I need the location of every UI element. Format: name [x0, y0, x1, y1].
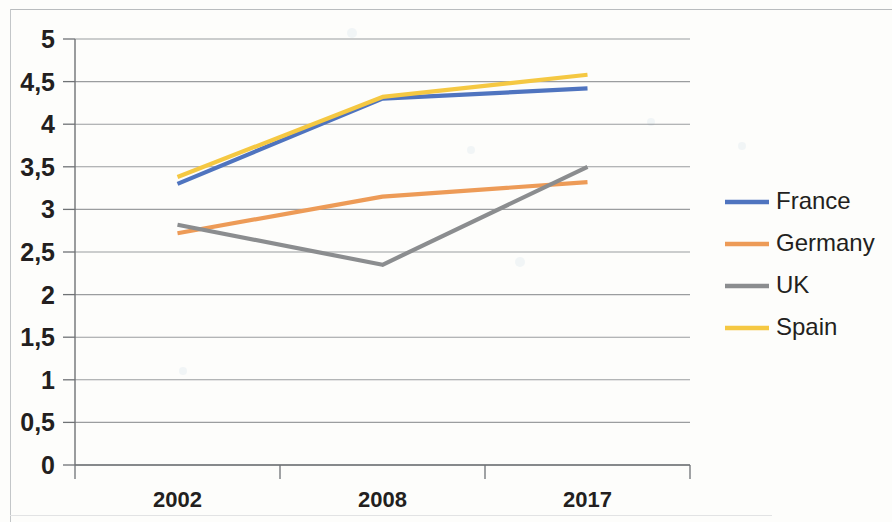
y-axis-label-4: 4 [41, 110, 55, 138]
chart-legend: FranceGermanyUKSpain [725, 187, 875, 340]
y-axis-label-5: 5 [41, 25, 55, 53]
x-axis-label-2017: 2017 [563, 487, 612, 512]
y-axis-label-2-5: 2,5 [20, 238, 55, 266]
y-gridlines [75, 39, 690, 465]
legend-label-germany: Germany [776, 229, 875, 256]
x-axis-label-2002: 2002 [153, 487, 202, 512]
legend-item-germany: Germany [725, 229, 875, 256]
legend-label-spain: Spain [776, 313, 837, 340]
y-axis-label-1: 1 [41, 366, 55, 394]
x-axis-labels: 200220082017 [153, 487, 612, 512]
y-axis-label-0: 0 [41, 451, 55, 479]
y-axis-label-3-5: 3,5 [20, 153, 55, 181]
legend-item-spain: Spain [725, 313, 837, 340]
legend-label-france: France [776, 187, 851, 214]
legend-item-uk: UK [725, 271, 809, 298]
y-axis-label-1-5: 1,5 [20, 323, 55, 351]
series-line-france [178, 88, 588, 183]
x-tick-marks [75, 465, 690, 479]
x-axis-label-2008: 2008 [358, 487, 407, 512]
paper-speckles [179, 28, 746, 375]
chart-canvas: 00,511,522,533,544,55 200220082017 Franc… [0, 0, 892, 522]
y-axis-label-4-5: 4,5 [20, 68, 55, 96]
legend-item-france: France [725, 187, 851, 214]
y-axis-label-0-5: 0,5 [20, 408, 55, 436]
series-lines [178, 75, 588, 265]
y-axis-label-2: 2 [41, 281, 55, 309]
y-axis-labels: 00,511,522,533,544,55 [20, 25, 55, 479]
series-line-uk [178, 167, 588, 265]
line-chart: 00,511,522,533,544,55 200220082017 Franc… [0, 0, 892, 522]
series-line-germany [178, 182, 588, 233]
y-axis-label-3: 3 [41, 195, 55, 223]
y-tick-marks [63, 39, 75, 465]
legend-label-uk: UK [776, 271, 809, 298]
